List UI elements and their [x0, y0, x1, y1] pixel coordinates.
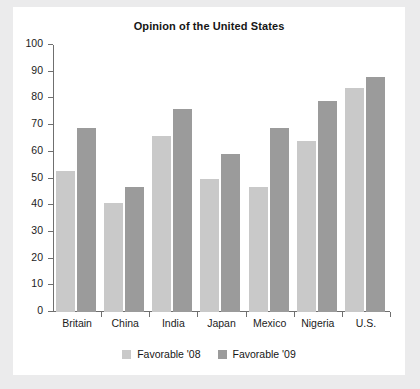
legend-item[interactable]: Favorable '08: [122, 348, 200, 360]
bar-group: U.S.: [342, 45, 390, 312]
legend-swatch-icon: [122, 350, 131, 359]
y-axis-tick-label: 20: [31, 251, 43, 263]
bar: [152, 136, 171, 312]
chart-legend: Favorable '08Favorable '09: [13, 348, 405, 360]
bar: [270, 128, 289, 312]
legend-swatch-icon: [218, 350, 227, 359]
x-axis-tick-label: Japan: [197, 317, 245, 329]
bar-group: Nigeria: [294, 45, 342, 312]
legend-label: Favorable '09: [233, 348, 296, 360]
bar-group: India: [149, 45, 197, 312]
chart-title: Opinion of the United States: [13, 20, 405, 32]
x-axis-tick-label: U.S.: [342, 317, 390, 329]
legend-label: Favorable '08: [137, 348, 200, 360]
x-axis-tick: [390, 312, 391, 317]
bar-group: Mexico: [246, 45, 294, 312]
bar: [318, 101, 337, 312]
y-axis-tick-label: 100: [25, 37, 43, 49]
y-axis-tick-label: 0: [37, 304, 43, 316]
y-axis-tick-label: 10: [31, 277, 43, 289]
bar-group: Britain: [53, 45, 101, 312]
x-axis-tick-label: Britain: [53, 317, 101, 329]
bar: [249, 187, 268, 312]
bar-group: Japan: [197, 45, 245, 312]
y-axis-tick-label: 80: [31, 90, 43, 102]
x-axis-tick-label: Mexico: [246, 317, 294, 329]
bar: [173, 109, 192, 312]
x-axis-tick-label: India: [149, 317, 197, 329]
y-axis-tick-label: 40: [31, 197, 43, 209]
bar: [297, 141, 316, 312]
bar: [125, 187, 144, 312]
bar: [77, 128, 96, 312]
plot-area: 0102030405060708090100 BritainChinaIndia…: [53, 45, 390, 312]
bar: [345, 88, 364, 312]
y-axis-tick-label: 90: [31, 64, 43, 76]
chart-card: Opinion of the United States 01020304050…: [13, 7, 405, 375]
x-axis-tick-label: Nigeria: [294, 317, 342, 329]
y-axis-tick-label: 50: [31, 171, 43, 183]
bar: [221, 154, 240, 312]
y-axis-tick-label: 30: [31, 224, 43, 236]
bar: [366, 77, 385, 312]
y-axis-tick-label: 70: [31, 117, 43, 129]
y-axis-tick-label: 60: [31, 144, 43, 156]
legend-item[interactable]: Favorable '09: [218, 348, 296, 360]
bar-group: China: [101, 45, 149, 312]
bar: [104, 203, 123, 312]
bar: [200, 179, 219, 313]
bar: [56, 171, 75, 313]
x-axis-tick-label: China: [101, 317, 149, 329]
